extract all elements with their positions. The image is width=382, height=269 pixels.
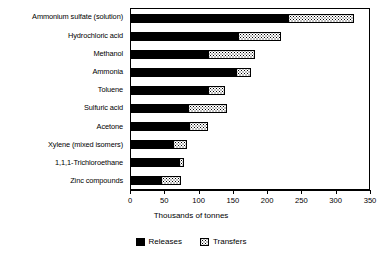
legend-label-transfers: Transfers	[213, 237, 247, 246]
bar-row	[131, 171, 369, 189]
x-axis-tick	[370, 190, 371, 194]
x-axis-tick	[336, 190, 337, 194]
x-axis-tick-label: 150	[227, 196, 240, 206]
bar-segment-transfers	[189, 123, 208, 130]
category-axis-labels: Ammonium sulfate (solution) Hydrochloric…	[0, 8, 127, 190]
x-axis-tick-label: 300	[329, 196, 342, 206]
bar-rows	[131, 9, 369, 189]
bar-segment-transfers	[288, 15, 353, 22]
bar-segment-transfers	[161, 177, 181, 184]
bar-segment-releases	[131, 33, 238, 40]
bar-segment-transfers	[179, 159, 184, 166]
x-axis-tick	[301, 190, 302, 194]
x-axis-tick	[164, 190, 165, 194]
chart-legend: Releases Transfers	[0, 237, 382, 246]
bar-row	[131, 117, 369, 135]
category-label: Hydrochloric acid	[0, 26, 127, 44]
bar-row	[131, 135, 369, 153]
bar-segment-releases	[131, 159, 179, 166]
bar-segment-releases	[131, 69, 236, 76]
bar-segment-releases	[131, 141, 173, 148]
bar-row	[131, 153, 369, 171]
stacked-bar	[130, 68, 251, 77]
bar-chart: Ammonium sulfate (solution) Hydrochloric…	[0, 0, 382, 269]
bar-row	[131, 81, 369, 99]
bar-segment-transfers	[208, 87, 224, 94]
bar-segment-releases	[131, 177, 161, 184]
x-axis-tick	[233, 190, 234, 194]
bar-segment-releases	[131, 15, 288, 22]
legend-swatch-transfers-icon	[200, 238, 209, 246]
bar-segment-releases	[131, 105, 188, 112]
bar-row	[131, 9, 369, 27]
stacked-bar	[130, 86, 225, 95]
bar-segment-transfers	[188, 105, 226, 112]
stacked-bar	[130, 158, 184, 167]
bar-segment-transfers	[238, 33, 280, 40]
x-axis-tick-label: 100	[192, 196, 205, 206]
x-axis-tick	[267, 190, 268, 194]
category-label: Toluene	[0, 81, 127, 99]
bar-row	[131, 99, 369, 117]
x-axis-tick-label: 250	[295, 196, 308, 206]
stacked-bar	[130, 50, 255, 59]
x-axis-tick-label: 0	[128, 196, 132, 206]
x-axis-tick-labels: 050100150200250300350	[130, 196, 370, 208]
bar-row	[131, 63, 369, 81]
legend-swatch-releases-icon	[136, 238, 145, 246]
legend-item-releases: Releases	[136, 237, 182, 246]
category-label: Methanol	[0, 44, 127, 62]
x-axis-tick	[130, 190, 131, 194]
x-axis-title: Thousands of tonnes	[0, 211, 382, 220]
category-label: Ammonium sulfate (solution)	[0, 8, 127, 26]
x-axis-ticks	[130, 190, 370, 195]
x-axis-tick-label: 50	[160, 196, 168, 206]
category-label: Xylene (mixed isomers)	[0, 135, 127, 153]
stacked-bar	[130, 14, 354, 23]
stacked-bar	[130, 122, 208, 131]
category-label: Ammonia	[0, 63, 127, 81]
category-label: Zinc compounds	[0, 172, 127, 190]
plot-area	[130, 8, 370, 190]
bar-segment-releases	[131, 87, 208, 94]
bar-row	[131, 45, 369, 63]
bar-row	[131, 27, 369, 45]
bar-segment-transfers	[208, 51, 254, 58]
legend-item-transfers: Transfers	[200, 237, 247, 246]
x-axis-tick	[199, 190, 200, 194]
x-axis-tick-label: 200	[261, 196, 274, 206]
category-label: Acetone	[0, 117, 127, 135]
stacked-bar	[130, 176, 181, 185]
stacked-bar	[130, 140, 187, 149]
category-label: 1,1,1-Trichloroethane	[0, 154, 127, 172]
stacked-bar	[130, 104, 227, 113]
x-axis-tick-label: 350	[364, 196, 377, 206]
bar-segment-transfers	[173, 141, 186, 148]
bar-segment-releases	[131, 51, 208, 58]
bar-segment-transfers	[236, 69, 250, 76]
stacked-bar	[130, 32, 281, 41]
category-label: Sulfuric acid	[0, 99, 127, 117]
bar-segment-releases	[131, 123, 189, 130]
legend-label-releases: Releases	[149, 237, 182, 246]
